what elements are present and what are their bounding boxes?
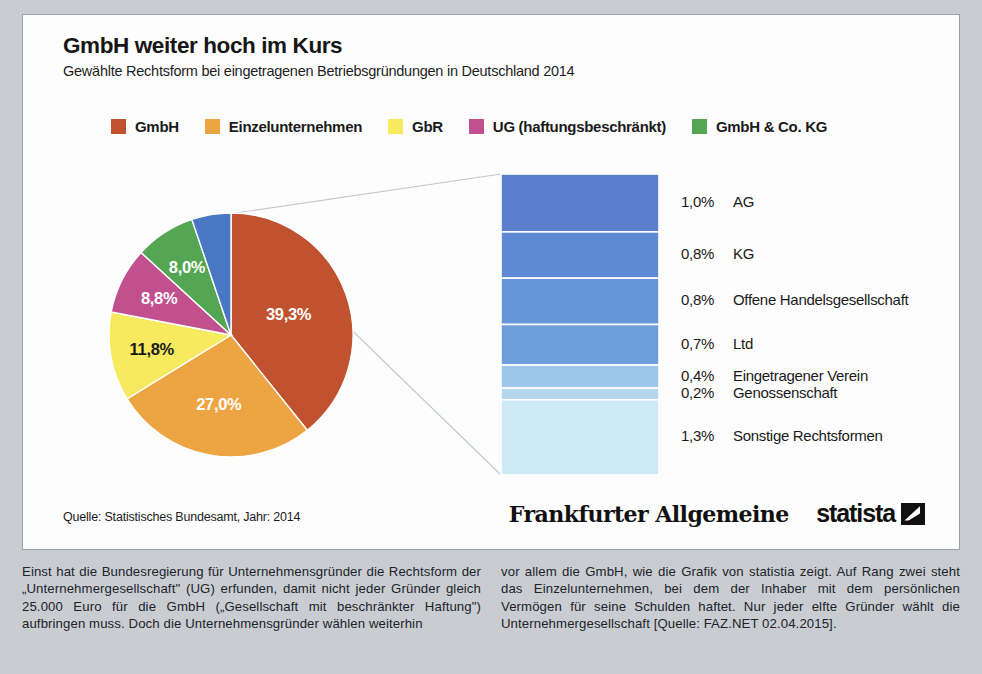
legend-item-label: GmbH (135, 118, 179, 135)
infographic-page: GmbH weiter hoch im Kurs Gewählte Rechts… (0, 0, 982, 674)
breakout-percent: 0,7% (681, 335, 733, 352)
article-body: Einst hat die Bundesregierung für Untern… (22, 563, 960, 663)
breakout-label-row: 0,2%Genossenschaft (681, 384, 837, 401)
pie-slice-label: 39,3% (266, 305, 312, 323)
source-note: Quelle: Statistisches Bundesamt, Jahr: 2… (63, 510, 300, 524)
article-column-right: vor allem die GmbH, wie die Grafik von s… (501, 563, 960, 663)
legend-item: UG (haftungsbeschränkt) (469, 118, 666, 135)
legend-item: GbR (388, 118, 443, 135)
statista-logo: statista (816, 499, 925, 528)
pie-slice-labels: 39,3%27,0%11,8%8,8%8,0% (130, 258, 312, 413)
breakout-category-name: Offene Handelsgesellschaft (733, 291, 908, 308)
breakout-label-row: 0,7%Ltd (681, 335, 753, 352)
breakout-label-row: 0,8%Offene Handelsgesellschaft (681, 291, 908, 308)
breakout-percent: 0,2% (681, 384, 733, 401)
breakout-label-row: 1,0%AG (681, 193, 754, 210)
breakout-connector-line (231, 213, 501, 475)
legend-item: Einzelunternehmen (205, 118, 362, 135)
statista-mark-icon (901, 503, 925, 525)
pie-slice (111, 253, 231, 335)
breakout-percent: 0,8% (681, 291, 733, 308)
legend-item-label: GmbH & Co. KG (716, 118, 827, 135)
legend-swatch-icon (111, 119, 126, 134)
breakout-category-name: Eingetragener Verein (733, 367, 868, 384)
breakout-bar-segment (501, 400, 659, 475)
article-column-left: Einst hat die Bundesregierung für Untern… (22, 563, 481, 663)
breakout-bar-segment (501, 365, 659, 388)
pie-slices (109, 213, 353, 457)
chart-area: 39,3%27,0%11,8%8,8%8,0% (23, 15, 961, 551)
infographic-card: GmbH weiter hoch im Kurs Gewählte Rechts… (22, 14, 960, 550)
chart-legend: GmbHEinzelunternehmenGbRUG (haftungsbesc… (111, 113, 921, 139)
breakout-bar-segment (501, 278, 659, 324)
breakout-percent: 1,3% (681, 427, 733, 444)
breakout-percent: 0,4% (681, 367, 733, 384)
breakout-category-name: Ltd (733, 335, 753, 352)
legend-swatch-icon (205, 119, 220, 134)
pie-slice (141, 219, 231, 335)
breakout-percent: 1,0% (681, 193, 733, 210)
breakout-bar-segment (501, 325, 659, 366)
breakout-percent: 0,8% (681, 245, 733, 262)
page-subtitle: Gewählte Rechtsform bei eingetragenen Be… (63, 63, 574, 79)
legend-swatch-icon (692, 119, 707, 134)
breakout-connector-lines (192, 174, 501, 475)
breakout-label-row: 0,8%KG (681, 245, 754, 262)
pie-slice-label: 27,0% (196, 395, 242, 413)
brand-logos: Frankfurter Allgemeine statista (503, 499, 925, 528)
breakout-label-row: 1,3%Sonstige Rechtsformen (681, 427, 883, 444)
legend-item: GmbH (111, 118, 179, 135)
breakout-category-name: Genossenschaft (733, 384, 837, 401)
breakout-category-name: Sonstige Rechtsformen (733, 427, 883, 444)
statista-glyph-icon (901, 503, 925, 525)
breakout-bar-segment (501, 232, 659, 278)
breakout-label-row: 0,4%Eingetragener Verein (681, 367, 868, 384)
breakout-bar-segment (501, 388, 659, 400)
breakout-bar-segment (501, 174, 659, 232)
statista-wordmark: statista (816, 499, 895, 528)
frankfurter-allgemeine-logo: Frankfurter Allgemeine (508, 500, 788, 527)
breakout-category-name: AG (733, 193, 754, 210)
pie-slice-label: 8,0% (169, 258, 206, 276)
pie-slice-label: 8,8% (141, 289, 178, 307)
pie-slice (231, 213, 353, 430)
pie-and-breakout-chart: 39,3%27,0%11,8%8,8%8,0% (23, 15, 961, 551)
pie-slice-label: 11,8% (130, 340, 175, 358)
legend-item-label: Einzelunternehmen (229, 118, 362, 135)
pie-slice (127, 335, 307, 457)
legend-item-label: UG (haftungsbeschränkt) (493, 118, 666, 135)
breakout-connector-line (192, 174, 501, 219)
pie-slice (109, 312, 231, 399)
legend-swatch-icon (388, 119, 403, 134)
article-paragraph-left: Einst hat die Bundesregierung für Untern… (22, 563, 481, 633)
breakout-bar-segments (501, 174, 659, 475)
page-title: GmbH weiter hoch im Kurs (63, 33, 342, 59)
legend-item: GmbH & Co. KG (692, 118, 827, 135)
legend-swatch-icon (469, 119, 484, 134)
legend-item-label: GbR (412, 118, 443, 135)
pie-slice (192, 213, 231, 335)
breakout-category-name: KG (733, 245, 754, 262)
article-paragraph-right: vor allem die GmbH, wie die Grafik von s… (501, 563, 960, 633)
